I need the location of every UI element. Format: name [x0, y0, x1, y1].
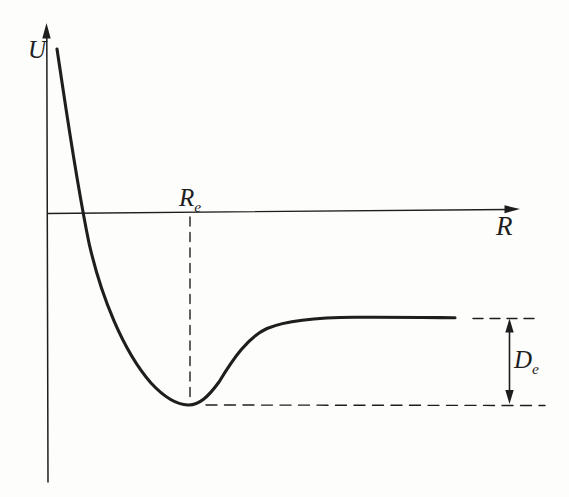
well-depth-label-subscript: e — [532, 360, 539, 377]
x-axis-label: R — [495, 211, 513, 241]
figure-background — [0, 0, 569, 497]
figure-svg: U R Re De — [0, 0, 569, 497]
equilibrium-label-subscript: e — [194, 198, 201, 215]
well-depth-label-base: D — [513, 346, 532, 373]
potential-energy-figure: U R Re De — [0, 0, 569, 497]
y-axis-label: U — [28, 36, 48, 63]
equilibrium-label-base: R — [178, 184, 194, 211]
